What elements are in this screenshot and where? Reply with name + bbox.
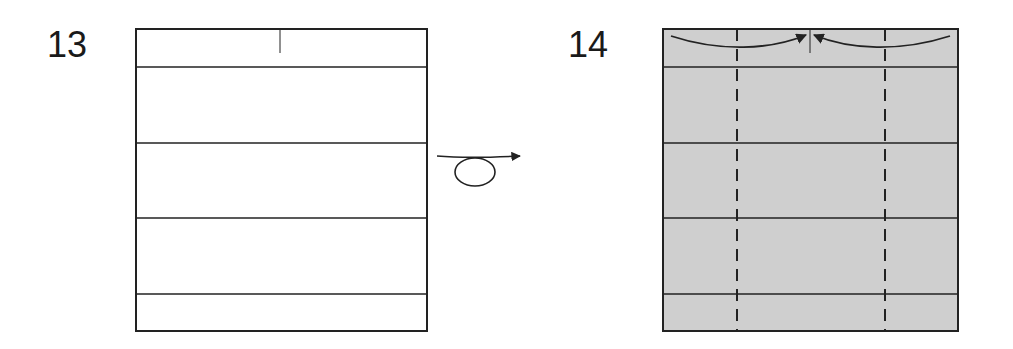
step-14-paper xyxy=(663,29,958,331)
step-13-paper xyxy=(136,29,427,331)
origami-diagram xyxy=(0,0,1013,349)
turn-over-icon xyxy=(437,156,520,186)
